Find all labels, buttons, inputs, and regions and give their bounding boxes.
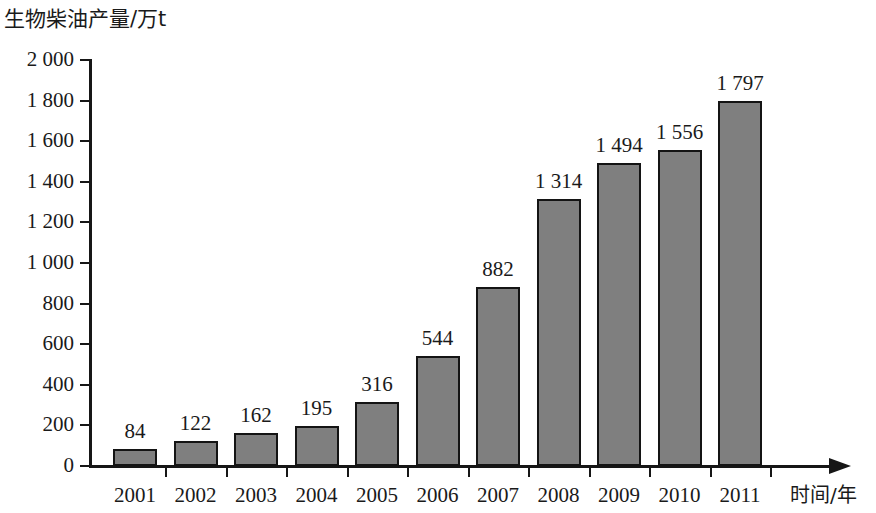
y-axis-tick — [80, 59, 90, 61]
y-axis-tick — [80, 221, 90, 223]
y-axis-tick — [80, 140, 90, 142]
bar-value-label: 195 — [267, 398, 367, 419]
y-axis-tick-label: 1 000 — [27, 252, 74, 273]
y-axis-tick — [80, 303, 90, 305]
y-axis-tick-label: 200 — [43, 414, 75, 435]
x-axis-tick-label: 2011 — [700, 483, 780, 507]
bar — [355, 402, 399, 466]
y-axis-tick-label: 1 600 — [27, 130, 74, 151]
x-axis-tick — [589, 468, 591, 477]
x-axis-tick — [407, 468, 409, 477]
y-axis-tick — [80, 343, 90, 345]
x-axis-tick — [710, 468, 712, 477]
x-axis-tick — [165, 468, 167, 477]
y-axis-tick-label: 1 200 — [27, 211, 74, 232]
bar — [174, 441, 218, 466]
y-axis-tick-label: 800 — [43, 293, 75, 314]
y-axis-tick — [80, 465, 90, 467]
y-axis-tick — [80, 181, 90, 183]
y-axis-tick — [80, 100, 90, 102]
x-axis-title: 时间/年 — [790, 483, 857, 507]
bar-value-label: 316 — [327, 374, 427, 395]
x-axis-tick — [468, 468, 470, 477]
bar-value-label: 1 314 — [509, 171, 609, 192]
bar — [416, 356, 460, 466]
x-axis-tick — [286, 468, 288, 477]
bar — [718, 101, 762, 466]
bar — [113, 449, 157, 466]
y-axis-title: 生物柴油产量/万t — [4, 6, 166, 32]
bar — [476, 287, 520, 466]
x-axis-tick — [347, 468, 349, 477]
y-axis-tick-label: 400 — [43, 374, 75, 395]
bar-value-label: 1 556 — [630, 122, 730, 143]
y-axis-tick-label: 1 400 — [27, 171, 74, 192]
bar — [234, 433, 278, 466]
bar — [658, 150, 702, 466]
bar-value-label: 1 797 — [690, 73, 790, 94]
y-axis-tick-label: 0 — [64, 455, 75, 476]
y-axis-tick-label: 2 000 — [27, 49, 74, 70]
x-axis-tick — [770, 468, 772, 477]
y-axis-tick-label: 1 800 — [27, 90, 74, 111]
x-axis-tick — [649, 468, 651, 477]
bar-chart: 生物柴油产量/万t 02004006008001 0001 2001 4001 … — [0, 0, 876, 513]
y-axis-tick-label: 600 — [43, 333, 75, 354]
bar-value-label: 882 — [448, 259, 548, 280]
x-axis-tick — [528, 468, 530, 477]
bar-value-label: 544 — [388, 328, 488, 349]
bar — [295, 426, 339, 466]
x-axis-tick — [226, 468, 228, 477]
y-axis-tick — [80, 384, 90, 386]
x-axis-arrow-icon — [829, 458, 851, 474]
bar — [537, 199, 581, 466]
y-axis-tick — [80, 262, 90, 264]
bar — [597, 163, 641, 466]
